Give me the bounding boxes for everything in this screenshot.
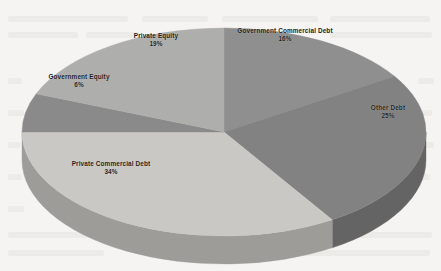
slice-label-percent: 19% xyxy=(110,40,202,48)
slice-label-government-commercial-debt: Government Commercial Debt 16% xyxy=(233,27,337,44)
pie-chart-figure: Government Commercial Debt 16% Other Deb… xyxy=(0,0,441,271)
slice-label-government-equity: Government Equity 6% xyxy=(30,73,128,90)
slice-label-private-equity: Private Equity 19% xyxy=(110,32,202,49)
slice-label-percent: 25% xyxy=(350,112,426,120)
slice-label-other-debt: Other Debt 25% xyxy=(350,104,426,121)
slice-label-percent: 16% xyxy=(233,35,337,43)
slice-label-private-commercial-debt: Private Commercial Debt 34% xyxy=(52,160,170,177)
pie-graphic xyxy=(0,0,441,271)
pie-stage: Government Commercial Debt 16% Other Deb… xyxy=(0,0,441,271)
slice-label-percent: 6% xyxy=(30,81,128,89)
slice-label-percent: 34% xyxy=(52,168,170,176)
